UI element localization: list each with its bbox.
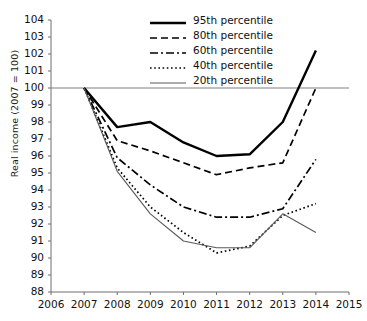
y-tick-label: 90 — [18, 251, 44, 263]
legend-swatch-icon — [150, 74, 186, 86]
series-line-3 — [84, 88, 316, 253]
legend-label: 40th percentile — [193, 59, 273, 71]
y-tick-label: 104 — [18, 13, 44, 25]
y-tick-label: 101 — [18, 64, 44, 76]
legend-item-1[interactable]: 80th percentile — [150, 27, 273, 42]
legend-label: 20th percentile — [193, 74, 273, 86]
legend-swatch-icon — [150, 29, 186, 41]
y-tick-label: 100 — [18, 81, 44, 93]
legend-swatch-icon — [150, 44, 186, 56]
x-tick-label: 2015 — [329, 298, 367, 310]
y-tick-label: 99 — [18, 98, 44, 110]
legend-label: 80th percentile — [193, 29, 273, 41]
y-tick-label: 88 — [18, 285, 44, 297]
legend-item-0[interactable]: 95th percentile — [150, 12, 273, 27]
legend-label: 60th percentile — [193, 44, 273, 56]
series-line-1 — [84, 88, 316, 175]
chart-legend: 95th percentile80th percentile60th perce… — [150, 12, 273, 87]
y-tick-label: 96 — [18, 149, 44, 161]
y-tick-label: 93 — [18, 200, 44, 212]
series-line-2 — [84, 88, 316, 217]
y-tick-label: 92 — [18, 217, 44, 229]
legend-label: 95th percentile — [193, 14, 273, 26]
y-tick-label: 94 — [18, 183, 44, 195]
y-tick-label: 91 — [18, 234, 44, 246]
y-tick-label: 102 — [18, 47, 44, 59]
y-tick-label: 98 — [18, 115, 44, 127]
legend-item-4[interactable]: 20th percentile — [150, 72, 273, 87]
legend-item-3[interactable]: 40th percentile — [150, 57, 273, 72]
y-tick-label: 95 — [18, 166, 44, 178]
y-tick-label: 97 — [18, 132, 44, 144]
y-tick-label: 89 — [18, 268, 44, 280]
legend-swatch-icon — [150, 14, 186, 26]
y-tick-label: 103 — [18, 30, 44, 42]
legend-item-2[interactable]: 60th percentile — [150, 42, 273, 57]
legend-swatch-icon — [150, 59, 186, 71]
